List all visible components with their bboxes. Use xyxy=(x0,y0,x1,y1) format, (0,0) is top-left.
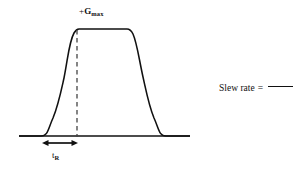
rise-time-label: tR xyxy=(52,150,59,160)
rise-time-label-subscript: R xyxy=(55,154,60,161)
slew-rate-term: Slew rate xyxy=(219,83,255,93)
equals-sign: = xyxy=(258,83,263,93)
amplitude-label-subscript: max xyxy=(91,10,103,17)
figure-canvas: +Gmax tR Slew rate = Gmax tR xyxy=(0,0,293,170)
gradient-pulse-curve xyxy=(19,29,190,136)
slew-rate-equation: Slew rate = Gmax tR xyxy=(219,75,293,100)
slew-rate-fraction: Gmax tR xyxy=(268,74,293,100)
amplitude-label: +Gmax xyxy=(79,6,104,16)
rise-time-arrow xyxy=(42,140,78,146)
fraction-bar xyxy=(268,86,293,87)
